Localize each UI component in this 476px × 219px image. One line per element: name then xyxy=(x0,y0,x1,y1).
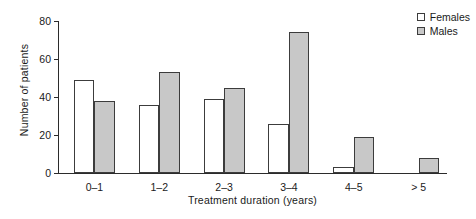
y-tick-label: 80 xyxy=(39,15,51,27)
bar-females-2 xyxy=(204,99,225,173)
x-axis-label: Treatment duration (years) xyxy=(58,194,447,206)
legend-label: Males xyxy=(430,25,458,37)
bar-males-4 xyxy=(354,137,375,173)
x-tick-label: 0–1 xyxy=(86,181,104,193)
legend-swatch-icon xyxy=(417,13,425,21)
bar-males-2 xyxy=(224,88,245,174)
y-axis-label: Number of patients xyxy=(16,2,32,178)
legend: FemalesMales xyxy=(417,11,470,37)
x-tick-label: 4–5 xyxy=(345,181,363,193)
y-tick-label: 0 xyxy=(45,167,51,179)
y-tick-mark xyxy=(54,135,58,136)
x-tick-label: 2–3 xyxy=(215,181,233,193)
legend-label: Females xyxy=(430,11,470,23)
x-axis-line xyxy=(58,173,447,174)
bar-males-5 xyxy=(419,158,440,173)
bar-females-1 xyxy=(139,105,160,173)
bar-females-0 xyxy=(74,80,95,173)
bar-males-0 xyxy=(94,101,115,173)
chart-figure: Number of patients 020406080 0–11–22–33–… xyxy=(0,0,476,219)
y-tick-mark xyxy=(54,173,58,174)
y-tick-mark xyxy=(54,59,58,60)
bar-females-3 xyxy=(268,124,289,173)
bar-males-3 xyxy=(289,32,310,173)
bar-males-1 xyxy=(159,72,180,173)
y-axis-line xyxy=(58,21,59,173)
y-tick-label: 60 xyxy=(39,53,51,65)
y-tick-label: 40 xyxy=(39,91,51,103)
legend-item-females: Females xyxy=(417,11,470,23)
plot-area: 020406080 0–11–22–33–44–5> 5 xyxy=(58,21,447,173)
y-tick-mark xyxy=(54,97,58,98)
y-tick-mark xyxy=(54,21,58,22)
x-tick-label: > 5 xyxy=(411,181,426,193)
x-tick-label: 1–2 xyxy=(150,181,168,193)
legend-swatch-icon xyxy=(417,27,425,35)
x-tick-label: 3–4 xyxy=(280,181,298,193)
legend-item-males: Males xyxy=(417,25,470,37)
bar-females-4 xyxy=(333,167,354,173)
y-tick-label: 20 xyxy=(39,129,51,141)
